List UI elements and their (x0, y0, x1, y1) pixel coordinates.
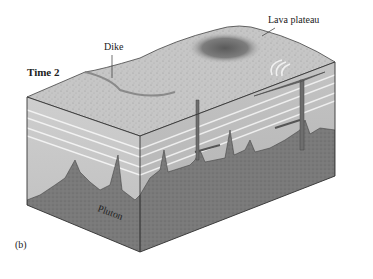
lava-plateau (187, 32, 263, 64)
panel-label: (b) (15, 239, 27, 251)
stage-title: Time 2 (27, 66, 60, 78)
dike-label: Dike (104, 41, 124, 52)
lava-plateau-label: Lava plateau (268, 14, 319, 25)
block-diagram: Time 2 Dike Lava plateau Pluton (b) (0, 0, 373, 279)
